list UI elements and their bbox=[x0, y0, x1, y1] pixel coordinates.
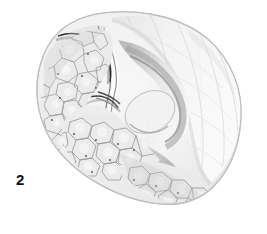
figure-number-label: 2 bbox=[16, 172, 24, 187]
specimen-illustration bbox=[0, 0, 267, 234]
figure-panel: 2 bbox=[0, 0, 267, 234]
